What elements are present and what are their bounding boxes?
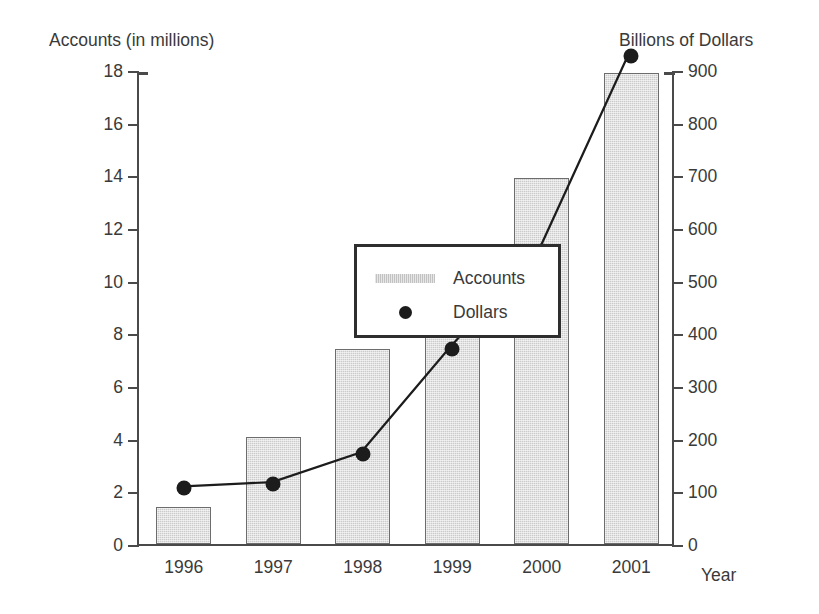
right-tick	[672, 282, 683, 284]
right-tick	[672, 124, 683, 126]
right-tick	[672, 229, 683, 231]
data-point	[355, 446, 370, 461]
chart-legend: Accounts Dollars	[354, 244, 561, 338]
left-tick-label: 10	[104, 274, 123, 292]
left-tick	[128, 545, 139, 547]
legend-item-accounts: Accounts	[357, 261, 558, 295]
right-tick-label: 100	[688, 485, 717, 503]
left-tick-label: 12	[104, 221, 123, 239]
right-tick	[672, 71, 683, 73]
right-tick-label: 300	[688, 379, 717, 397]
left-tick	[128, 492, 139, 494]
right-tick	[672, 387, 683, 389]
right-tick-label: 600	[688, 221, 717, 239]
left-tick	[128, 229, 139, 231]
right-tick-label: 500	[688, 274, 717, 292]
data-point	[266, 476, 281, 491]
right-axis-title: Billions of Dollars	[619, 30, 753, 51]
left-tick-label: 4	[113, 432, 123, 450]
left-tick	[128, 124, 139, 126]
right-tick-label: 400	[688, 327, 717, 345]
left-tick-label: 16	[104, 116, 123, 134]
x-tick-label: 1998	[343, 557, 382, 578]
left-tick	[128, 387, 139, 389]
right-tick-label: 0	[688, 537, 698, 555]
left-tick	[128, 282, 139, 284]
right-tick	[672, 440, 683, 442]
x-tick-label: 1999	[433, 557, 472, 578]
left-tick-label: 14	[104, 169, 123, 187]
x-tick-label: 1996	[164, 557, 203, 578]
legend-swatch-icon	[357, 274, 453, 283]
right-tick-label: 800	[688, 116, 717, 134]
legend-label-dollars: Dollars	[453, 302, 507, 323]
left-tick-label: 18	[104, 63, 123, 81]
right-tick-label: 900	[688, 63, 717, 81]
right-tick	[672, 492, 683, 494]
left-tick	[128, 440, 139, 442]
left-axis-title: Accounts (in millions)	[49, 30, 214, 51]
right-tick	[672, 334, 683, 336]
left-tick	[128, 334, 139, 336]
x-axis-title: Year	[701, 565, 736, 586]
right-tick-label: 200	[688, 432, 717, 450]
left-tick	[128, 71, 139, 73]
data-point	[624, 49, 639, 64]
plot-area: 024681012141618 010020030040050060070080…	[137, 72, 674, 546]
x-tick-label: 1997	[254, 557, 293, 578]
right-tick	[672, 545, 683, 547]
legend-dot-icon	[357, 306, 453, 319]
data-point	[445, 341, 460, 356]
left-tick-label: 8	[113, 327, 123, 345]
data-point	[176, 481, 191, 496]
x-tick-label: 2000	[522, 557, 561, 578]
right-tick	[672, 176, 683, 178]
left-tick-label: 0	[113, 537, 123, 555]
legend-item-dollars: Dollars	[357, 295, 558, 329]
chart-canvas: Accounts (in millions) Billions of Dolla…	[0, 0, 819, 614]
x-tick-label: 2001	[612, 557, 651, 578]
left-tick-label: 2	[113, 485, 123, 503]
legend-label-accounts: Accounts	[453, 268, 525, 289]
left-tick-label: 6	[113, 379, 123, 397]
left-tick	[128, 176, 139, 178]
right-tick-label: 700	[688, 169, 717, 187]
